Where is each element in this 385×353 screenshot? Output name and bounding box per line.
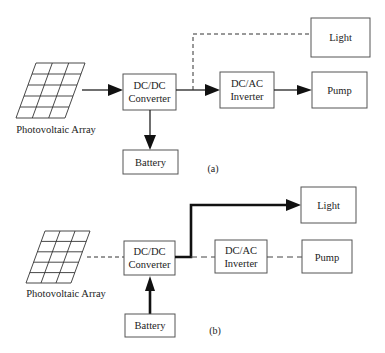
pump-label: Pump [327,85,352,96]
pump-box: Pump [302,240,352,273]
arrowhead [286,199,301,211]
pv-array-label: Photovoltaic Array [26,288,106,299]
light-label: Light [317,200,340,211]
light-label: Light [329,32,352,43]
dcac-inverter-box: DC/AC Inverter [215,240,267,273]
battery-label: Battery [135,157,167,168]
pump-box: Pump [312,72,367,108]
pv-array-label: Photovoltaic Array [16,124,96,135]
pump-label: Pump [315,252,340,263]
pv-array-icon [16,63,85,118]
light-box: Light [311,18,370,57]
dcac-label-line1: DC/AC [225,245,257,256]
dcdc-label-line1: DC/DC [133,246,165,257]
battery-label: Battery [135,320,167,331]
light-box: Light [301,187,356,223]
dcdc-converter-box: DC/DC Converter [124,241,175,275]
dcac-inverter-box: DC/AC Inverter [220,72,274,108]
diagram-a: Photovoltaic Array DC/DC Converter Batte… [16,18,370,175]
edge-pv-to-dcdc [82,84,123,96]
edge-dcdc-to-dcac [176,84,220,96]
edge-dcdc-to-battery [144,110,156,150]
edge-dcac-to-pump [274,85,312,95]
battery-box: Battery [123,150,178,174]
dcac-label-line2: Inverter [230,91,264,102]
arrowhead [108,84,123,96]
dcac-label-line1: DC/AC [231,78,263,89]
dcdc-label-line1: DC/DC [133,80,165,91]
edge-battery-to-dcdc [145,276,155,314]
arrowhead [144,135,156,150]
caption-b: (b) [209,325,221,337]
dcdc-label-line2: Converter [129,259,171,270]
pv-system-diagram: Photovoltaic Array DC/DC Converter Batte… [0,0,385,353]
arrowhead [205,84,220,96]
dcdc-label-line2: Converter [129,93,171,104]
diagram-b: Photovoltaic Array DC/DC Converter Batte… [26,187,356,337]
arrowhead [145,276,155,291]
pv-array-icon [26,231,90,283]
caption-a: (a) [207,163,218,175]
arrowhead [297,85,312,95]
battery-box: Battery [125,314,175,337]
dcdc-converter-box: DC/DC Converter [123,74,176,110]
dcac-label-line2: Inverter [224,258,258,269]
